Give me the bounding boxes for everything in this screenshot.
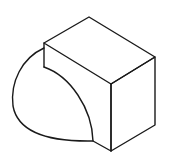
- block-top-face: [44, 17, 155, 84]
- block-right-face: [111, 57, 155, 151]
- quarter-sphere-outer-arc: [13, 48, 93, 141]
- figure-svg: [0, 0, 172, 163]
- isometric-figure: [0, 0, 172, 163]
